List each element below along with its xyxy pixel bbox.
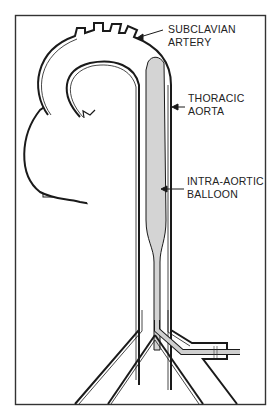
label-balloon-line1: INTRA-AORTIC — [187, 175, 264, 187]
label-balloon-line2: BALLOON — [187, 188, 238, 200]
label-thoracic-line1: THORACIC — [188, 92, 245, 104]
label-subclavian-line1: SUBCLAVIAN — [168, 23, 236, 35]
iabp-diagram: SUBCLAVIAN ARTERY THORACIC AORTA INTRA-A… — [0, 0, 279, 420]
label-subclavian-line2: ARTERY — [168, 36, 211, 48]
label-thoracic-line2: AORTA — [188, 105, 224, 117]
